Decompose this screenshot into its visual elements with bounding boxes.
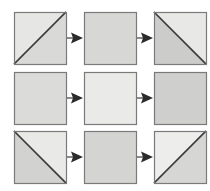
square-row1-col1[interactable] <box>14 12 67 65</box>
cells-layer <box>14 12 207 184</box>
process-grid-diagram <box>0 0 210 191</box>
square-row1-col3[interactable] <box>154 12 207 65</box>
square-row3-col1[interactable] <box>14 131 67 184</box>
square-row2-col2[interactable] <box>85 73 137 125</box>
square-row3-col2[interactable] <box>85 132 137 184</box>
square-row3-col2-body <box>85 132 137 184</box>
square-row1-col2-body <box>85 13 137 65</box>
square-row2-col3-body <box>155 73 207 125</box>
square-row2-col2-body <box>85 73 137 125</box>
square-row2-col3[interactable] <box>155 73 207 125</box>
square-row2-col1[interactable] <box>15 73 67 125</box>
square-row1-col2[interactable] <box>85 13 137 65</box>
square-row2-col1-body <box>15 73 67 125</box>
diagram-canvas <box>0 0 210 191</box>
square-row3-col3[interactable] <box>154 131 207 184</box>
